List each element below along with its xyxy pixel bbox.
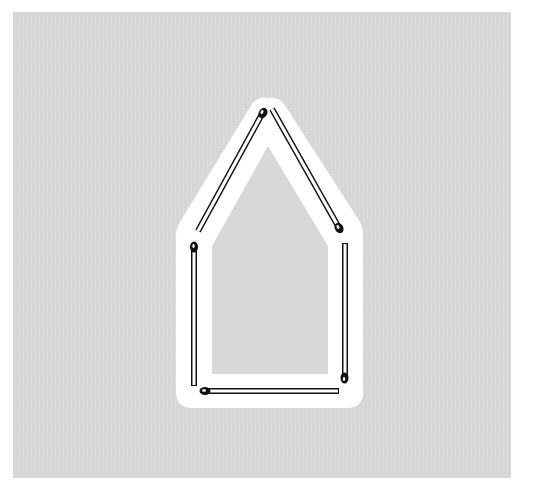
match-floor [200,387,340,395]
match-wall-left [190,242,198,387]
matchstick-house-figure [0,0,535,493]
